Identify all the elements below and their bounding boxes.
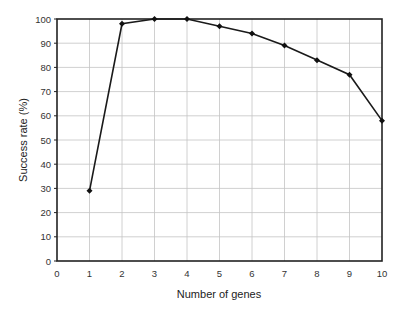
y-tick-label: 20 [40, 207, 51, 218]
gridlines [57, 19, 382, 261]
y-tick-label: 60 [40, 110, 51, 121]
x-tick-label: 5 [217, 268, 222, 279]
y-tick-label: 40 [40, 159, 51, 170]
data-point-marker [249, 31, 255, 37]
data-point-marker [184, 16, 190, 22]
x-tick-label: 4 [184, 268, 189, 279]
x-tick-label: 6 [249, 268, 254, 279]
data-point-marker [314, 57, 320, 63]
y-tick-label: 70 [40, 86, 51, 97]
x-tick-label: 3 [152, 268, 157, 279]
x-tick-label: 0 [54, 268, 59, 279]
y-tick-label: 30 [40, 183, 51, 194]
y-tick-label: 0 [46, 256, 51, 267]
x-tick-label: 2 [119, 268, 124, 279]
y-tick-label: 80 [40, 62, 51, 73]
x-tick-label: 8 [314, 268, 319, 279]
x-axis-label: Number of genes [177, 288, 262, 300]
data-point-marker [119, 21, 125, 27]
data-point-marker [217, 23, 223, 29]
y-tick-label: 10 [40, 231, 51, 242]
y-tick-label: 50 [40, 135, 51, 146]
y-axis-label: Success rate (%) [17, 98, 29, 182]
y-tick-label: 100 [35, 14, 51, 25]
x-axis-ticks: 012345678910 [54, 268, 387, 279]
x-tick-label: 7 [282, 268, 287, 279]
x-tick-label: 9 [347, 268, 352, 279]
x-tick-label: 1 [87, 268, 92, 279]
line-chart: 0102030405060708090100 012345678910 Numb… [0, 0, 406, 312]
y-tick-label: 90 [40, 38, 51, 49]
success-rate-line [90, 19, 383, 191]
y-axis-ticks: 0102030405060708090100 [35, 14, 57, 267]
x-tick-label: 10 [377, 268, 388, 279]
data-point-markers [87, 16, 386, 194]
data-point-marker [152, 16, 158, 22]
